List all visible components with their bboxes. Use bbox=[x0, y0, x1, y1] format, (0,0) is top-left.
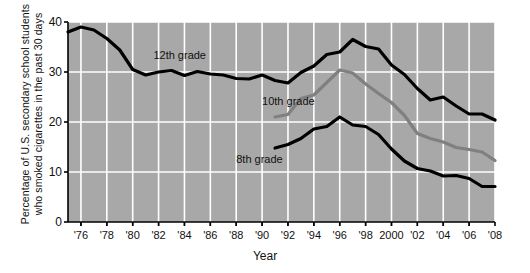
x-tick-label: '82 bbox=[151, 229, 165, 241]
x-tick-label: '88 bbox=[229, 229, 243, 241]
x-tick-label: '04 bbox=[436, 229, 450, 241]
chart-figure: Percentage of U.S. secondary school stud… bbox=[0, 0, 530, 273]
series-label-8th-grade: 8th grade bbox=[236, 153, 282, 165]
x-tick-label: '90 bbox=[255, 229, 269, 241]
x-tick-label: '96 bbox=[333, 229, 347, 241]
x-tick-label: '06 bbox=[462, 229, 476, 241]
x-tick-label: '98 bbox=[358, 229, 372, 241]
x-tick-label: '80 bbox=[126, 229, 140, 241]
x-tick-label: 2000 bbox=[379, 229, 403, 241]
x-tick-label: '92 bbox=[281, 229, 295, 241]
x-tick-label: '08 bbox=[488, 229, 502, 241]
x-axis-title: Year bbox=[0, 249, 530, 263]
x-axis-tick-labels: '76'78'80'82'84'86'88'90'92'94'96'982000… bbox=[0, 0, 530, 273]
series-label-12th-grade: 12th grade bbox=[153, 49, 206, 61]
x-tick-label: '78 bbox=[100, 229, 114, 241]
series-label-10th-grade: 10th grade bbox=[262, 95, 315, 107]
x-tick-label: '94 bbox=[307, 229, 321, 241]
x-tick-label: '86 bbox=[203, 229, 217, 241]
x-tick-label: '84 bbox=[177, 229, 191, 241]
x-tick-label: '02 bbox=[410, 229, 424, 241]
x-tick-label: '76 bbox=[74, 229, 88, 241]
